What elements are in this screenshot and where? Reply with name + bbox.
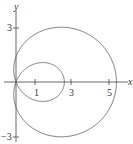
y-tick-3: 3 — [7, 22, 12, 33]
y-tick-neg3: −3 — [1, 131, 12, 142]
polar-chart: 1 3 5 3 −3 y x — [0, 0, 133, 144]
x-axis-label: x — [127, 76, 133, 87]
x-tick-1: 1 — [34, 87, 39, 98]
y-axis-label: y — [13, 1, 19, 12]
x-tick-5: 5 — [107, 87, 112, 98]
x-tick-3: 3 — [69, 87, 74, 98]
